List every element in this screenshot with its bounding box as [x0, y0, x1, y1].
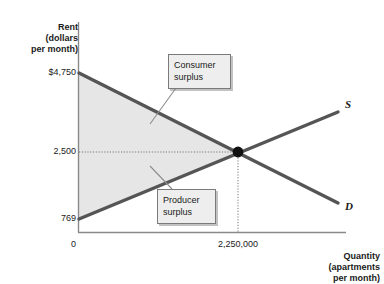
x-axis-title-line-3: per month) — [290, 273, 380, 284]
consumer-surplus-callout: Consumer surplus — [168, 54, 231, 89]
y-axis-title-line-1: Rent — [31, 22, 78, 33]
y-axis-title: Rent (dollars per month) — [31, 22, 78, 55]
producer-surplus-callout-line-1: Producer — [163, 194, 210, 206]
origin-tick-label: 0 — [71, 239, 76, 249]
y-tick-label-2500: 2,500 — [53, 146, 76, 156]
x-axis-title: Quantity (apartments per month) — [290, 251, 380, 284]
y-axis-title-line-2: (dollars — [31, 33, 78, 44]
x-axis-title-line-2: (apartments — [290, 262, 380, 273]
x-axis-title-line-1: Quantity — [290, 251, 380, 262]
demand-curve-label: D — [345, 200, 353, 212]
producer-surplus-callout-line-2: surplus — [163, 206, 210, 218]
supply-demand-figure: Rent (dollars per month) Quantity (apart… — [0, 0, 384, 284]
equilibrium-point — [233, 147, 244, 158]
y-tick-label-4750: $4,750 — [48, 67, 76, 77]
consumer-surplus-callout-line-2: surplus — [174, 71, 225, 83]
y-axis-title-line-3: per month) — [31, 44, 78, 55]
producer-surplus-callout: Producer surplus — [157, 189, 216, 224]
consumer-surplus-callout-line-1: Consumer — [174, 59, 225, 71]
y-tick-label-769: 769 — [61, 213, 76, 223]
supply-curve-label: S — [345, 98, 351, 110]
x-tick-label-quantity: 2,250,000 — [196, 239, 280, 249]
